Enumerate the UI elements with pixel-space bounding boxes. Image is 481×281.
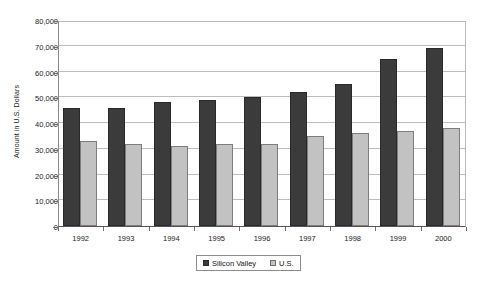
bar-u-s-1992: [80, 141, 97, 226]
legend-item: Silicon Valley: [203, 259, 256, 268]
plot-area: [58, 21, 466, 227]
x-axis-tick-label: 1998: [331, 234, 375, 243]
y-axis-tick-label: 20,000: [6, 171, 58, 180]
chart-legend: Silicon ValleyU.S.: [196, 255, 301, 271]
y-axis-tick-label: 70,000: [6, 42, 58, 51]
x-axis-tick-mark: [421, 227, 422, 231]
legend-label: U.S.: [279, 259, 294, 268]
y-axis-tick-label: 40,000: [6, 120, 58, 129]
bar-group: [240, 22, 285, 226]
y-axis-ticks: 010,00020,00030,00040,00050,00060,00070,…: [0, 0, 58, 281]
bar-group: [59, 22, 104, 226]
y-axis-tick-label: 30,000: [6, 145, 58, 154]
bar-u-s-2000: [443, 128, 460, 226]
bar-group: [150, 22, 195, 226]
bar-silicon-valley-1998: [335, 84, 352, 226]
x-axis-tick-mark: [285, 227, 286, 231]
x-axis-tick-label: 1997: [285, 234, 329, 243]
bar-group: [104, 22, 149, 226]
bar-silicon-valley-1994: [154, 102, 171, 226]
bar-u-s-1998: [352, 133, 369, 226]
bars-layer: [59, 22, 465, 226]
bar-u-s-1994: [171, 146, 188, 226]
bar-silicon-valley-2000: [426, 48, 443, 226]
x-axis-tick-label: 1996: [240, 234, 284, 243]
bar-chart: Amount in U.S. Dollars 010,00020,00030,0…: [0, 0, 481, 281]
y-axis-tick-label: 10,000: [6, 197, 58, 206]
x-axis-tick-label: 2000: [421, 234, 465, 243]
y-axis-tick-label: 50,000: [6, 94, 58, 103]
bar-group: [195, 22, 240, 226]
legend-swatch-icon: [270, 260, 276, 266]
bar-u-s-1996: [261, 144, 278, 226]
bar-group: [376, 22, 421, 226]
bar-u-s-1993: [125, 144, 142, 226]
bar-silicon-valley-1993: [108, 108, 125, 226]
x-axis-tick-mark: [466, 227, 467, 231]
bar-u-s-1997: [307, 136, 324, 226]
x-axis-tick-label: 1992: [59, 234, 103, 243]
legend-swatch-icon: [203, 260, 209, 266]
y-axis-tick-label: 60,000: [6, 68, 58, 77]
x-axis-tick-mark: [149, 227, 150, 231]
y-axis-tick-label: 0: [6, 223, 58, 232]
bar-silicon-valley-1996: [244, 97, 261, 226]
x-axis-tick-mark: [103, 227, 104, 231]
bar-silicon-valley-1997: [290, 92, 307, 226]
x-axis-tick-label: 1993: [104, 234, 148, 243]
x-axis-tick-mark: [375, 227, 376, 231]
x-axis-tick-mark: [58, 227, 59, 231]
x-axis-tick-label: 1995: [195, 234, 239, 243]
x-axis-tick-mark: [330, 227, 331, 231]
y-axis-tick-label: 80,000: [6, 17, 58, 26]
x-axis-tick-mark: [239, 227, 240, 231]
x-axis: 199219931994199519961997199819992000: [58, 227, 466, 257]
bar-group: [286, 22, 331, 226]
bar-silicon-valley-1995: [199, 100, 216, 226]
bar-u-s-1999: [397, 131, 414, 226]
x-axis-tick-label: 1999: [376, 234, 420, 243]
bar-silicon-valley-1992: [63, 108, 80, 226]
bar-silicon-valley-1999: [380, 59, 397, 226]
x-axis-tick-mark: [194, 227, 195, 231]
bar-u-s-1995: [216, 144, 233, 226]
legend-item: U.S.: [270, 259, 294, 268]
legend-label: Silicon Valley: [212, 259, 256, 268]
bar-group: [331, 22, 376, 226]
bar-group: [422, 22, 467, 226]
x-axis-tick-label: 1994: [149, 234, 193, 243]
